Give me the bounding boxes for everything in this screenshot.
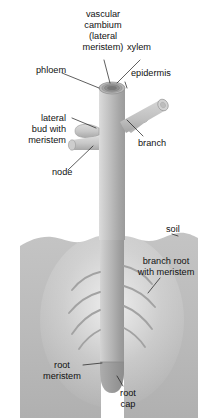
label-branch: branch — [138, 138, 166, 148]
vascular-cambium-line-2: cambium — [84, 20, 122, 30]
label-vascular-cambium: vascular cambium (lateral meristem) — [83, 9, 124, 52]
vascular-cambium-line-1: vascular — [86, 9, 120, 19]
diagram-canvas: vascular cambium (lateral meristem) xyle… — [0, 0, 210, 418]
plant-anatomy-diagram: vascular cambium (lateral meristem) xyle… — [0, 0, 210, 418]
bud-cylinder — [72, 136, 99, 150]
label-epidermis: epidermis — [131, 68, 171, 78]
label-phloem: phloem — [36, 65, 66, 75]
root-meristem-line-2: meristem — [43, 371, 81, 381]
lateral-bud — [68, 124, 99, 150]
stem-body — [99, 88, 125, 240]
leader-phloem — [62, 73, 99, 88]
label-lateral-bud: lateral bud with meristem — [28, 113, 66, 145]
root-cap-line-2: cap — [121, 399, 136, 409]
label-branch-root: branch root with meristem — [137, 256, 195, 277]
xylem-core — [107, 86, 117, 90]
vascular-cambium-line-4: meristem) — [83, 42, 124, 52]
label-soil: soil — [166, 224, 180, 234]
label-node: node — [52, 167, 72, 177]
stem-cross-section — [99, 82, 125, 94]
lateral-bud-line-3: meristem — [28, 135, 66, 145]
branch-root-line-2: with meristem — [137, 267, 195, 277]
vascular-cambium-line-3: (lateral — [89, 31, 117, 41]
leader-epidermis — [125, 82, 127, 88]
bud-scale — [75, 124, 99, 138]
branch-root-line-1: branch root — [143, 256, 190, 266]
main-stem — [99, 88, 125, 240]
lateral-bud-line-2: bud with — [32, 124, 66, 134]
branches — [120, 97, 170, 133]
label-root-cap: root cap — [120, 388, 136, 409]
root-cap-line-1: root — [120, 388, 136, 398]
root-meristem-line-1: root — [54, 360, 70, 370]
label-xylem: xylem — [127, 42, 151, 52]
bud-tip-ellipse — [68, 140, 75, 150]
leader-vascular-cambium — [104, 60, 110, 83]
main-root — [100, 236, 124, 393]
lateral-bud-line-1: lateral — [41, 113, 66, 123]
